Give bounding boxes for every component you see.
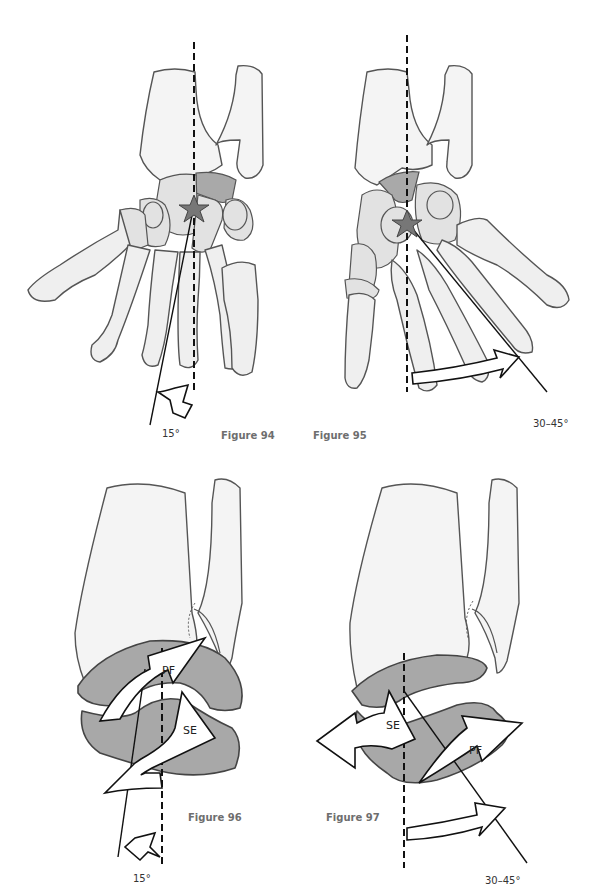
figure-94-angle: 15° bbox=[162, 428, 180, 439]
figure-96-caption: Figure 96 bbox=[188, 812, 242, 823]
se-label: SE bbox=[183, 724, 197, 737]
figure-94-illustration bbox=[0, 0, 307, 443]
fibula bbox=[198, 479, 242, 673]
pf-label: PF bbox=[162, 664, 175, 677]
figure-95-illustration bbox=[307, 0, 614, 443]
figure-96-panel: PF SE Figure 96 15° bbox=[0, 443, 307, 886]
pf-label: PF bbox=[469, 744, 482, 757]
se-label: SE bbox=[386, 719, 400, 732]
figure-96-illustration bbox=[0, 443, 307, 886]
first-metatarsal bbox=[28, 210, 130, 301]
figure-95-angle: 30–45° bbox=[533, 418, 568, 429]
rotation-arrow bbox=[158, 385, 192, 418]
figure-97-caption: Figure 97 bbox=[326, 812, 380, 823]
figure-94-panel: 15° Figure 94 bbox=[0, 0, 307, 443]
rotation-arrow bbox=[407, 803, 505, 840]
tibia bbox=[140, 69, 222, 180]
figure-94-caption: Figure 94 bbox=[221, 430, 275, 441]
figure-97-panel: SE PF Figure 97 30–45° bbox=[307, 443, 614, 886]
rotation-arrow bbox=[125, 833, 160, 860]
figure-97-angle: 30–45° bbox=[485, 875, 520, 886]
figure-96-angle: 15° bbox=[133, 873, 151, 884]
figure-95-panel: Figure 95 30–45° bbox=[307, 0, 614, 443]
figure-95-caption: Figure 95 bbox=[313, 430, 367, 441]
fibula bbox=[216, 66, 263, 179]
